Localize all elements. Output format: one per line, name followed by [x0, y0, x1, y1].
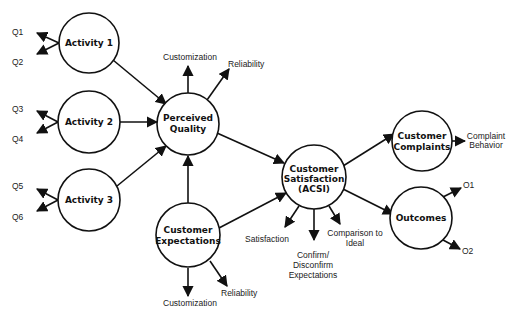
indicator-cs-confirm-line2: Disconfirm — [293, 260, 333, 270]
indicator-edges — [37, 33, 465, 296]
indicator-o1: O1 — [463, 180, 475, 190]
indicator-complaint-behavior-line2: Behavior — [469, 140, 503, 150]
indicator-q4: Q4 — [12, 134, 24, 144]
edge-activity1-q1 — [37, 33, 59, 43]
edge-expectations-to-satisfaction — [219, 193, 286, 228]
node-label-line1: Customer — [164, 225, 213, 235]
edge-perceived-quality-to-satisfaction — [217, 133, 284, 163]
node-label-line2: Complaints — [394, 142, 451, 152]
acsi-model-diagram: Activity 1 Activity 2 Activity 3 Perceiv… — [0, 0, 509, 317]
indicator-o2: O2 — [462, 246, 474, 256]
indicator-cs-confirm-line3: Expectations — [289, 270, 338, 280]
indicator-pq-customization: Customization — [163, 52, 217, 62]
edge-outcomes-o1 — [443, 188, 461, 197]
indicator-q3: Q3 — [12, 104, 24, 114]
indicator-q5: Q5 — [12, 181, 24, 191]
node-label: Activity 1 — [65, 38, 113, 48]
edge-activity2-q4 — [37, 122, 58, 133]
node-label: Activity 2 — [65, 117, 113, 127]
edge-activity3-to-perceived-quality — [117, 146, 166, 186]
node-label: Outcomes — [396, 213, 447, 223]
indicator-cs-comparison-line1: Comparison to — [327, 228, 383, 238]
indicator-ce-customization: Customization — [163, 298, 217, 308]
indicator-q6: Q6 — [12, 212, 24, 222]
node-customer-complaints: Customer Complaints — [392, 111, 452, 171]
node-activity-1: Activity 1 — [59, 13, 119, 73]
edge-satisfaction-to-complaints — [343, 134, 394, 166]
node-label-line3: (ACSI) — [298, 184, 330, 194]
indicator-cs-confirm-line1: Confirm/ — [297, 250, 330, 260]
indicator-cs-comparison-line2: Ideal — [346, 238, 365, 248]
indicator-q2: Q2 — [12, 57, 24, 67]
indicator-pq-reliability: Reliability — [228, 59, 265, 69]
edge-activity2-q3 — [37, 111, 58, 122]
edge-activity1-to-perceived-quality — [113, 60, 166, 104]
node-label-line1: Customer — [398, 131, 447, 141]
indicator-ce-reliability: Reliability — [221, 288, 258, 298]
node-label-line2: Satisfaction — [284, 174, 345, 184]
node-label-line2: Expectations — [155, 236, 221, 246]
node-customer-satisfaction: Customer Satisfaction (ACSI) — [282, 145, 346, 209]
edge-cs-satisfaction — [285, 206, 299, 227]
node-activity-2: Activity 2 — [58, 91, 120, 153]
edge-activity3-q5 — [37, 189, 58, 200]
node-outcomes: Outcomes — [390, 187, 452, 249]
edge-activity3-q6 — [37, 200, 58, 211]
node-label: Activity 3 — [65, 195, 113, 205]
edge-cs-comparison — [329, 206, 340, 224]
node-perceived-quality: Perceived Quality — [157, 93, 219, 155]
indicator-q1: Q1 — [12, 27, 24, 37]
edge-activity1-q2 — [37, 43, 59, 54]
edge-pq-reliability — [207, 69, 229, 100]
edge-ce-reliability — [210, 261, 227, 286]
structural-edges — [113, 60, 394, 228]
node-label-line2: Quality — [170, 124, 207, 134]
edge-outcomes-o2 — [443, 240, 460, 249]
node-label-line1: Perceived — [163, 113, 213, 123]
edge-satisfaction-to-outcomes — [343, 189, 393, 214]
indicator-cs-satisfaction: Satisfaction — [245, 234, 289, 244]
node-label-line1: Customer — [290, 164, 339, 174]
node-customer-expectations: Customer Expectations — [155, 203, 221, 267]
node-activity-3: Activity 3 — [58, 169, 120, 231]
